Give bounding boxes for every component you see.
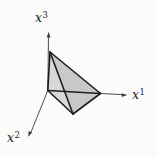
x2-label-base: x [7, 130, 14, 145]
x3-axis-arrowhead-icon [47, 32, 51, 38]
x3-axis-label: x3 [35, 11, 48, 25]
x1-axis-arrowhead-icon [122, 93, 128, 97]
x2-axis-label: x2 [7, 131, 20, 145]
x2-axis-arrowhead-icon [28, 131, 32, 137]
x1-axis-label: x1 [132, 88, 145, 102]
simplex-figure [0, 0, 157, 157]
x2-label-superscript: 2 [15, 130, 20, 140]
x1-label-base: x [132, 87, 139, 102]
x1-label-superscript: 1 [140, 87, 145, 97]
x2-axis-line [31, 91, 48, 133]
x3-label-superscript: 3 [43, 10, 48, 20]
simplex-group [48, 52, 101, 114]
x3-label-base: x [35, 10, 42, 25]
figure-canvas: x3 x1 x2 [0, 0, 157, 157]
